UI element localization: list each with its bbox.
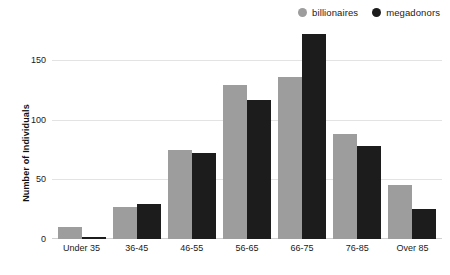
bar-megadonors[interactable]	[412, 209, 436, 239]
bar-group	[54, 22, 109, 239]
circle-icon	[372, 8, 381, 17]
y-tick-label: 150	[31, 55, 46, 65]
bar-billionaires[interactable]	[168, 150, 192, 239]
bar-billionaires[interactable]	[388, 185, 412, 239]
bar-groups	[52, 22, 442, 239]
bar-group	[219, 22, 274, 239]
y-tick-label: 50	[36, 174, 46, 184]
bar-megadonors[interactable]	[192, 153, 216, 239]
legend-label-megadonors: megadonors	[386, 8, 440, 18]
bar-group	[330, 22, 385, 239]
bar-billionaires[interactable]	[333, 134, 357, 239]
legend-label-billionaires: billionaires	[312, 8, 358, 18]
x-tick-label: 76-85	[330, 243, 385, 253]
bar-megadonors[interactable]	[247, 100, 271, 240]
bar-group	[385, 22, 440, 239]
bar-megadonors[interactable]	[82, 237, 106, 239]
bar-megadonors[interactable]	[357, 146, 381, 239]
y-axis-title: Number of Individuals	[21, 83, 31, 223]
x-tick-label: 66-75	[275, 243, 330, 253]
bar-megadonors[interactable]	[137, 204, 161, 239]
bar-megadonors[interactable]	[302, 34, 326, 239]
bar-billionaires[interactable]	[278, 77, 302, 239]
bar-billionaires[interactable]	[223, 85, 247, 239]
circle-icon	[298, 8, 307, 17]
plot-area: 050100150	[52, 22, 442, 239]
x-tick-label: 56-65	[219, 243, 274, 253]
x-tick-label: Under 35	[54, 243, 109, 253]
bar-group	[164, 22, 219, 239]
bar-billionaires[interactable]	[113, 207, 137, 239]
y-tick-label: 0	[41, 234, 46, 244]
bar-billionaires[interactable]	[58, 227, 82, 239]
bar-group	[275, 22, 330, 239]
x-tick-label: 46-55	[164, 243, 219, 253]
bar-chart: billionaires megadonors Number of Indivi…	[0, 0, 450, 275]
chart-legend: billionaires megadonors	[298, 8, 440, 18]
x-tick-label: 36-45	[109, 243, 164, 253]
y-tick-label: 100	[31, 115, 46, 125]
x-tick-label: Over 85	[385, 243, 440, 253]
bar-group	[109, 22, 164, 239]
legend-entry-billionaires[interactable]: billionaires	[298, 8, 358, 18]
x-axis-labels: Under 3536-4546-5556-6566-7576-85Over 85	[52, 243, 442, 253]
legend-entry-megadonors[interactable]: megadonors	[372, 8, 440, 18]
